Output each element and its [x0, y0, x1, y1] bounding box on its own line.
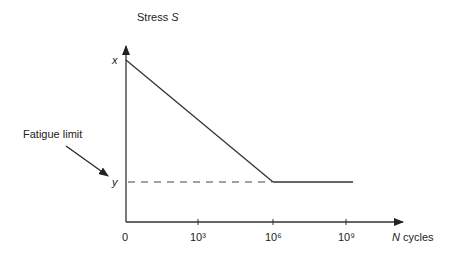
y-tick-label-y: y [111, 176, 119, 188]
x-tick-label-0: 0 [122, 231, 128, 243]
sn-curve-chart: Stress S x y 0 10³ 10⁶ 10⁹ N cycles Fati… [0, 0, 457, 258]
y-tick-label-x: x [111, 54, 118, 66]
x-tick-label-1e3: 10³ [190, 231, 206, 243]
x-tick-label-1e9: 10⁹ [338, 231, 355, 243]
sn-curve-slope [126, 60, 273, 182]
x-axis-label: N cycles [392, 231, 434, 243]
fatigue-limit-arrow [66, 146, 108, 176]
x-tick-label-1e6: 10⁶ [265, 231, 282, 243]
fatigue-limit-label: Fatigue limit [23, 128, 82, 140]
y-axis-label: Stress S [137, 11, 179, 23]
